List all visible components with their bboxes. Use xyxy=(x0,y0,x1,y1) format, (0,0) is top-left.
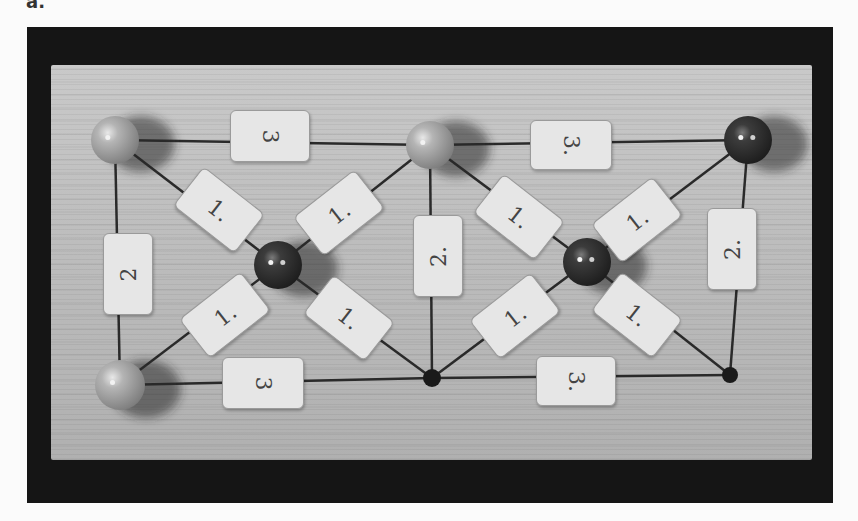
node-bottom-middle-small-dot xyxy=(423,369,441,387)
card-label: 1. xyxy=(503,201,535,234)
card-label: 3 xyxy=(251,376,276,390)
highlight2-center-left xyxy=(280,260,285,265)
highlight-top-right xyxy=(738,135,743,140)
card-top-left-3: 3 xyxy=(230,110,310,162)
card-label: 2. xyxy=(426,246,451,267)
node-top-left-light-ball xyxy=(91,116,139,164)
card-label: 3. xyxy=(559,135,584,156)
highlight-center-left xyxy=(268,260,273,265)
card-label: 1. xyxy=(333,302,365,335)
highlight-top-left xyxy=(105,135,110,140)
card-label: 2. xyxy=(720,239,745,260)
card-right-2: 2. xyxy=(707,208,757,290)
node-top-right-dark-ball xyxy=(724,116,772,164)
node-center-left-dark-ball xyxy=(254,241,302,289)
card-label: 1. xyxy=(209,299,241,332)
card-left-2: 2 xyxy=(103,233,153,315)
card-top-right-3: 3. xyxy=(530,120,612,170)
highlight-bottom-left xyxy=(110,380,115,385)
highlight2-top-right xyxy=(750,135,755,140)
card-bottom-left-3: 3 xyxy=(222,357,304,409)
card-label: 1. xyxy=(621,299,653,332)
node-top-middle-light-ball xyxy=(406,121,454,169)
node-center-right-dark-ball xyxy=(563,238,611,286)
node-bottom-left-light-ball xyxy=(95,360,145,410)
card-label: 3 xyxy=(258,129,283,143)
card-bottom-right-3: 3. xyxy=(536,356,616,406)
card-middle-2: 2. xyxy=(413,215,463,297)
card-label: 2 xyxy=(116,267,141,281)
highlight-top-middle xyxy=(420,140,425,145)
card-label: 1. xyxy=(621,204,653,237)
highlight2-center-right xyxy=(589,257,594,262)
card-label: 1. xyxy=(203,194,235,227)
node-bottom-right-small-dot xyxy=(722,367,738,383)
card-label: 3. xyxy=(564,371,589,392)
highlight-center-right xyxy=(577,257,582,262)
card-label: 1. xyxy=(499,300,531,333)
card-label: 1. xyxy=(323,197,355,230)
